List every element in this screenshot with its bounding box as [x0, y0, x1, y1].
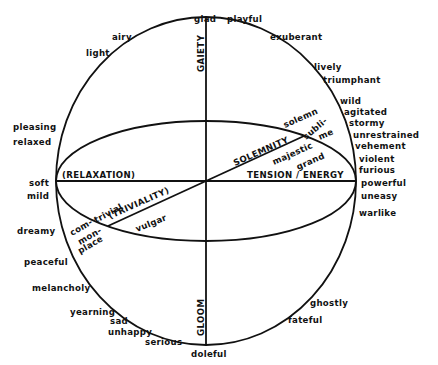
- axis-label-gaiety: GAIETY: [196, 34, 206, 72]
- term-mild: mild: [27, 191, 49, 201]
- term-lively: lively: [314, 62, 342, 72]
- term-pleasing: pleasing: [13, 122, 56, 132]
- term-wild: wild: [340, 96, 361, 106]
- term-warlike: warlike: [359, 208, 396, 218]
- term-uneasy: uneasy: [361, 191, 397, 201]
- axis-label-gloom: GLOOM: [196, 299, 206, 336]
- term-light: light: [86, 48, 110, 58]
- term-agitated: agitated: [344, 107, 387, 117]
- term-unhappy: unhappy: [108, 327, 152, 337]
- term-playful: playful: [227, 14, 262, 24]
- term-vehement: vehement: [355, 141, 406, 151]
- term-unrestrained: unrestrained: [353, 130, 419, 140]
- term-peaceful: peaceful: [24, 257, 68, 267]
- term-vulgar: vulgar: [134, 212, 168, 234]
- term-serious: serious: [145, 337, 182, 347]
- term-glad: glad: [194, 14, 216, 24]
- mood-sphere-diagram: GAIETY GLOOM (RELAXATION) TENSION / ENER…: [0, 0, 438, 365]
- term-yearning: yearning: [70, 307, 115, 317]
- term-airy: airy: [112, 32, 132, 42]
- term-stormy: stormy: [349, 118, 385, 128]
- term-doleful: doleful: [191, 349, 227, 359]
- axis-label-relaxation: (RELAXATION): [62, 170, 135, 180]
- term-powerful: powerful: [361, 178, 406, 188]
- term-triumphant: triumphant: [323, 75, 381, 85]
- term-exuberant: exuberant: [270, 32, 322, 42]
- term-relaxed: relaxed: [13, 137, 51, 147]
- term-melancholy: melancholy: [32, 283, 90, 293]
- term-fateful: fateful: [288, 315, 322, 325]
- term-furious: furious: [359, 165, 395, 175]
- term-sad: sad: [110, 316, 128, 326]
- term-violent: violent: [359, 154, 395, 164]
- term-ghostly: ghostly: [310, 298, 348, 308]
- axis-label-tension-energy: TENSION / ENERGY: [247, 170, 344, 180]
- term-soft: soft: [29, 178, 49, 188]
- term-dreamy: dreamy: [17, 226, 55, 236]
